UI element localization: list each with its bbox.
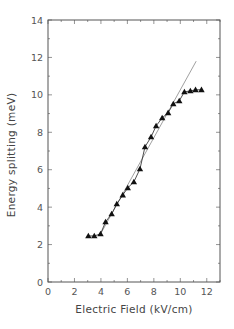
data-markers [85,87,205,239]
triangle-marker [142,144,148,150]
y-tick-labels: 02468101214 [31,15,43,288]
y-tick-label: 14 [31,15,43,26]
triangle-marker [165,110,171,116]
y-tick-label: 4 [37,202,43,213]
x-axis-label: Electric Field (kV/cm) [75,303,192,315]
x-tick-labels: 024681012 [45,286,213,297]
x-tick-label: 8 [151,286,157,297]
x-tick-label: 2 [71,286,77,297]
y-tick-label: 10 [31,89,43,100]
y-tick-label: 8 [37,127,43,138]
y-tick-label: 2 [37,239,43,250]
triangle-marker [131,179,137,185]
triangle-marker [97,231,103,237]
data-line [88,90,201,236]
y-tick-label: 6 [37,164,43,175]
plot-frame [48,20,220,282]
y-tick-label: 12 [31,52,43,63]
y-axis-label: Energy splitting (meV) [5,93,17,218]
x-tick-label: 12 [201,286,213,297]
triangle-marker [120,192,126,198]
x-tick-label: 10 [174,286,186,297]
x-tick-label: 0 [45,286,51,297]
chart: 024681012 02468101214 Electric Field (kV… [0,0,234,329]
axis-ticks [48,20,220,282]
y-tick-label: 0 [37,277,43,288]
x-tick-label: 4 [98,286,104,297]
triangle-marker [108,211,114,217]
triangle-marker [176,98,182,104]
triangle-marker [148,134,154,140]
triangle-marker [114,201,120,207]
triangle-marker [170,101,176,107]
x-tick-label: 6 [124,286,130,297]
